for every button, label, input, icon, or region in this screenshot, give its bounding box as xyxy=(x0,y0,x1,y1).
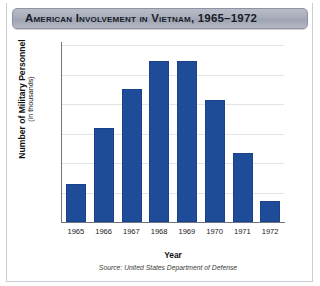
bar xyxy=(66,184,86,222)
bar xyxy=(233,153,253,222)
bar xyxy=(94,128,114,222)
x-tick-label: 1969 xyxy=(173,227,201,236)
x-tick-label: 1966 xyxy=(90,227,118,236)
x-tick-label: 1967 xyxy=(118,227,146,236)
bar xyxy=(260,201,280,222)
x-tick-label: 1968 xyxy=(145,227,173,236)
bar-slot xyxy=(256,45,284,222)
plot-area: 0100200300400500600 19651966196719681969… xyxy=(62,45,284,222)
y-axis-title-units: (in thousands) xyxy=(27,19,35,179)
x-tick-label: 1972 xyxy=(256,227,284,236)
bar-slot xyxy=(201,45,229,222)
x-axis-line xyxy=(61,222,285,223)
bar xyxy=(149,61,169,222)
x-tick-label: 1970 xyxy=(201,227,229,236)
chart-figure: American Involvement in Vietnam, 1965–19… xyxy=(0,0,320,286)
bar-slot xyxy=(90,45,118,222)
x-tick-label: 1971 xyxy=(229,227,257,236)
bar-slot xyxy=(62,45,90,222)
bar xyxy=(177,61,197,222)
source-note: Source: United States Department of Defe… xyxy=(40,264,296,271)
bar-slot xyxy=(229,45,257,222)
x-tick-label: 1965 xyxy=(62,227,90,236)
bar-slot xyxy=(173,45,201,222)
bar xyxy=(205,100,225,222)
bar-series xyxy=(62,45,284,222)
bar xyxy=(122,89,142,222)
y-axis-title: Number of Military Personnel (in thousan… xyxy=(18,19,48,179)
bar-slot xyxy=(118,45,146,222)
bar-slot xyxy=(145,45,173,222)
x-axis-title: Year xyxy=(62,250,284,260)
plot-wrapper: Number of Military Personnel (in thousan… xyxy=(0,0,320,286)
